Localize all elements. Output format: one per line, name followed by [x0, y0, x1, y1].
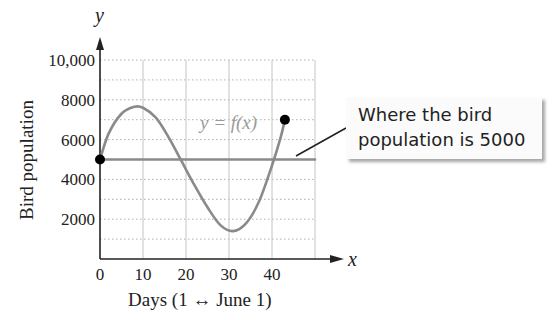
- x-tick-label: 30: [221, 265, 238, 284]
- y-tick-label: 8000: [61, 91, 95, 110]
- x-axis-label: Days (1 ↔ June 1): [128, 289, 272, 311]
- y-tick-label: 6000: [61, 131, 95, 150]
- y-axis-arrow-icon: [96, 37, 104, 50]
- x-axis-variable: x: [347, 248, 357, 270]
- y-axis-label: Bird population: [16, 100, 37, 220]
- x-tick-label: 40: [264, 265, 281, 284]
- x-tick-label: 20: [178, 265, 195, 284]
- x-tick-label: 0: [96, 265, 105, 284]
- y-tick-label: 2000: [61, 210, 95, 229]
- callout-pointer: [296, 128, 346, 156]
- callout-line-2: population is 5000: [358, 127, 542, 152]
- annotation-callout: Where the bird population is 5000: [346, 97, 542, 159]
- x-tick-label: 10: [135, 265, 152, 284]
- bird-population-chart: 200040006000800010,000010203040 y = f(x)…: [0, 0, 554, 320]
- data-point: [95, 155, 105, 165]
- x-axis-arrow-icon: [330, 255, 344, 263]
- y-tick-label: 4000: [61, 170, 95, 189]
- curve-f-of-x: [100, 106, 285, 231]
- tick-labels: 200040006000800010,000010203040: [48, 51, 280, 284]
- curve-label: y = f(x): [198, 112, 257, 134]
- callout-line-1: Where the bird: [358, 102, 542, 127]
- y-axis-variable: y: [93, 4, 104, 27]
- y-tick-label: 10,000: [48, 51, 95, 70]
- data-point: [280, 115, 290, 125]
